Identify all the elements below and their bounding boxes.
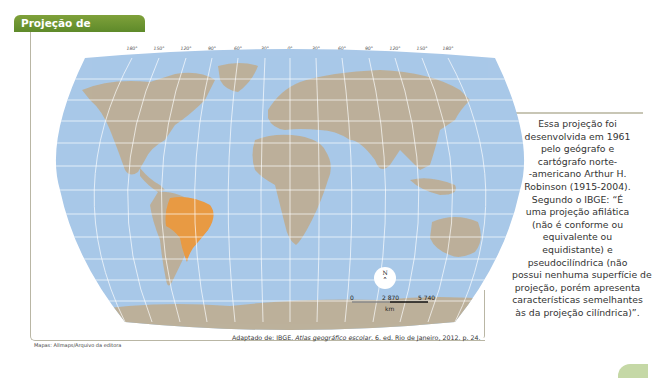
desc-line: às da projeção cilíndrica)”. [512, 307, 643, 320]
desc-line: equivalente ou [512, 231, 643, 244]
scale-label-0: 0 [350, 294, 354, 301]
source-title: Atlas geográfico escolar [295, 334, 371, 341]
source-suffix: . 6. ed. Rio de Janeiro, 2012. p. 24. [371, 334, 480, 341]
compass-arrow-icon: ˄ [374, 277, 396, 286]
page-corner-decoration [618, 364, 648, 378]
desc-line: desenvolvida em 1961 [512, 131, 643, 144]
scale-unit: km [385, 305, 394, 312]
desc-line: Essa projeção foi [512, 118, 643, 131]
map-credit: Mapas: Allmaps/Arquivo da editora [34, 342, 121, 348]
source-prefix: Adaptado de: IBGE. [232, 334, 295, 341]
scale-label-2: 5 740 [418, 294, 435, 301]
source-citation: Adaptado de: IBGE. Atlas geográfico esco… [232, 334, 480, 341]
desc-line: Segundo o IBGE: “É [512, 194, 643, 207]
desc-line: -americano Arthur H. [512, 168, 643, 181]
compass-rose: N ˄ [374, 267, 396, 289]
desc-line: pelo geógrafo e [512, 143, 643, 156]
desc-line: (não é conforme ou [512, 219, 643, 232]
desc-line: características semelhantes [512, 294, 643, 307]
projection-description: Essa projeção foi desenvolvida em 1961 p… [512, 118, 643, 320]
desc-line: projeção, porém apresenta [512, 282, 643, 295]
desc-line: pseudocilíndrica (não [512, 257, 643, 270]
desc-line: equidistante) e [512, 244, 643, 257]
desc-line: uma projeção afilática [512, 206, 643, 219]
desc-line: cartógrafo norte- [512, 156, 643, 169]
desc-line: Robinson (1915-2004). [512, 181, 643, 194]
scale-label-1: 2 870 [382, 294, 399, 301]
desc-line: possui nenhuma superfície de [512, 269, 643, 282]
